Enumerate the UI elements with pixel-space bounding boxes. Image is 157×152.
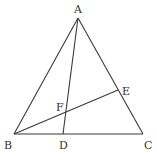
label-D: D (59, 139, 68, 152)
geometry-figure: A B C D E F (0, 0, 157, 152)
label-A: A (73, 3, 83, 16)
label-E: E (122, 85, 130, 98)
segment-BE (14, 90, 118, 134)
label-C: C (144, 139, 152, 152)
segment-AD (63, 18, 78, 134)
segment-AC (78, 18, 143, 134)
label-B: B (4, 139, 12, 152)
segment-AB (14, 18, 78, 134)
label-F: F (56, 101, 64, 114)
